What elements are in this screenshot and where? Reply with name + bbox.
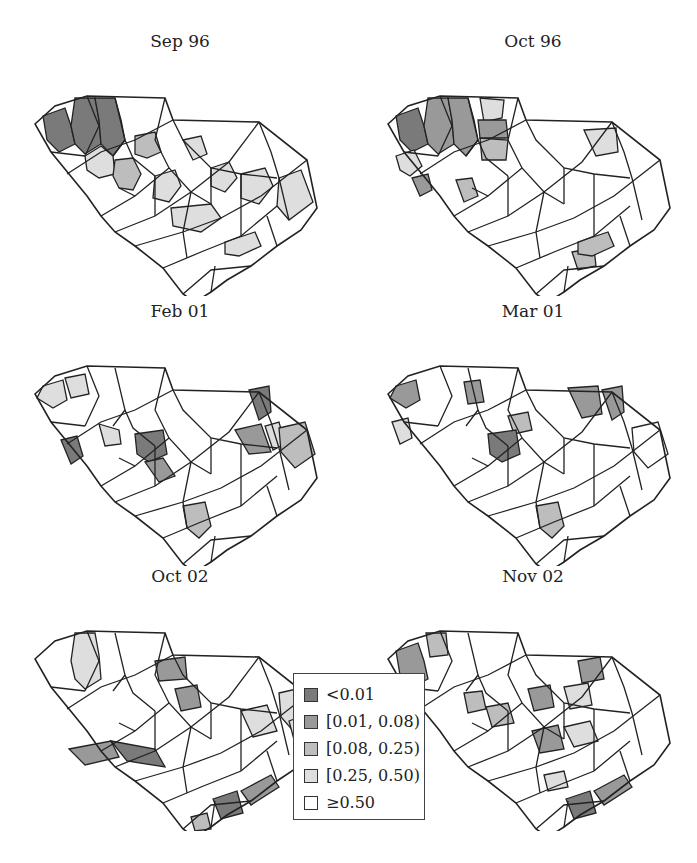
panel-title: Sep 96 <box>15 30 345 52</box>
county-region <box>426 633 448 657</box>
legend-swatch <box>304 742 318 756</box>
sc-county-map <box>368 56 697 296</box>
legend-item: [0.25, 0.50) <box>304 762 424 789</box>
legend-label: ≥0.50 <box>326 793 375 812</box>
panel-title: Oct 96 <box>368 30 697 52</box>
legend-item: [0.01, 0.08) <box>304 708 424 735</box>
sc-county-map <box>15 56 345 296</box>
county-region <box>464 691 486 713</box>
county-region <box>578 657 604 683</box>
legend-item: [0.08, 0.25) <box>304 735 424 762</box>
panel-title: Nov 02 <box>368 565 697 587</box>
legend-label: [0.08, 0.25) <box>326 739 420 758</box>
legend-swatch <box>304 769 318 783</box>
legend-item: ≥0.50 <box>304 789 424 816</box>
legend-swatch <box>304 688 318 702</box>
county-region <box>478 120 508 138</box>
sc-county-map <box>15 326 345 566</box>
legend-label: <0.01 <box>326 685 375 704</box>
legend-swatch <box>304 715 318 729</box>
county-region <box>480 98 504 122</box>
legend-label: [0.01, 0.08) <box>326 712 420 731</box>
panel-feb-01: Feb 01 <box>15 300 345 570</box>
legend: <0.01 [0.01, 0.08) [0.08, 0.25) [0.25, 0… <box>293 673 425 820</box>
panel-oct-96: Oct 96 <box>368 30 697 300</box>
county-region <box>155 657 187 681</box>
legend-label: [0.25, 0.50) <box>326 766 420 785</box>
panel-title: Mar 01 <box>368 300 697 322</box>
panel-title: Oct 02 <box>15 565 345 587</box>
county-region <box>412 174 432 196</box>
panel-sep-96: Sep 96 <box>15 30 345 300</box>
county-region <box>392 418 412 444</box>
legend-swatch <box>304 796 318 810</box>
sc-county-map <box>368 326 697 566</box>
legend-item: <0.01 <box>304 681 424 708</box>
panel-mar-01: Mar 01 <box>368 300 697 570</box>
panel-title: Feb 01 <box>15 300 345 322</box>
county-region <box>544 771 568 791</box>
